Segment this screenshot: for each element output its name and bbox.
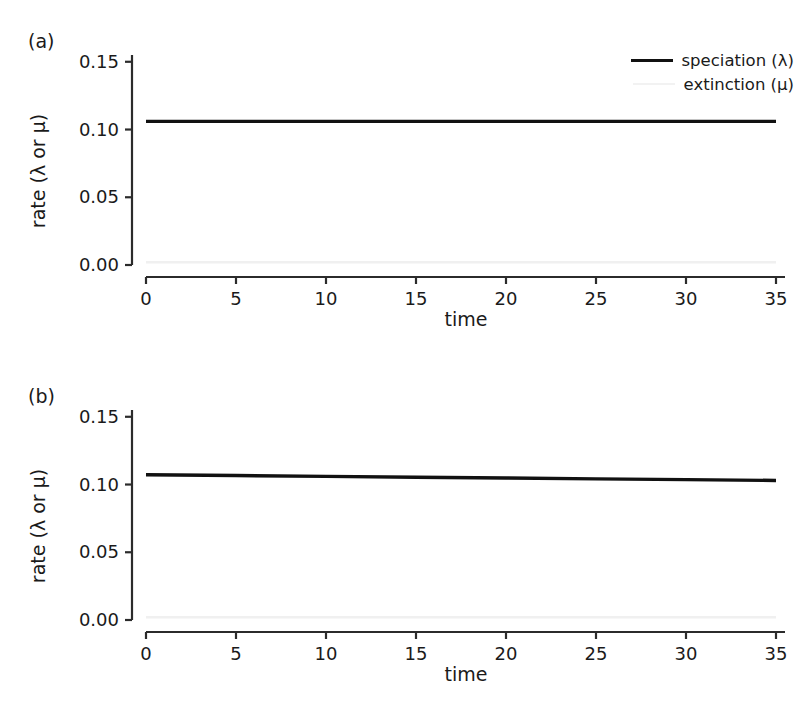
legend-entry-extinction: extinction (μ) [631, 72, 794, 96]
x-axis-label-a: time [146, 308, 786, 330]
legend-label-extinction: extinction (μ) [684, 75, 794, 94]
x-tick-label: 25 [576, 288, 616, 309]
x-tick-label: 30 [666, 643, 706, 664]
x-tick-label: 35 [756, 288, 796, 309]
x-tick-label: 15 [396, 288, 436, 309]
x-tick-label: 5 [216, 643, 256, 664]
x-tick-label: 0 [126, 643, 166, 664]
x-tick-label: 30 [666, 288, 706, 309]
x-tick-label: 15 [396, 643, 436, 664]
x-tick-label: 10 [306, 643, 346, 664]
figure-root: (a) rate (λ or μ) time 0.000.050.100.15 … [0, 0, 812, 710]
y-tick-label: 0.15 [61, 51, 119, 72]
legend-line-speciation-icon [631, 59, 673, 62]
x-tick-label: 10 [306, 288, 346, 309]
y-tick-label: 0.00 [61, 254, 119, 275]
x-tick-label: 5 [216, 288, 256, 309]
y-tick-label: 0.10 [61, 119, 119, 140]
legend-a: speciation (λ) extinction (μ) [631, 48, 794, 96]
y-axis-label-b: rate (λ or μ) [27, 426, 49, 626]
legend-line-extinction-icon [633, 83, 675, 85]
y-tick-label: 0.05 [61, 541, 119, 562]
x-tick-label: 35 [756, 643, 796, 664]
y-tick-label: 0.15 [61, 406, 119, 427]
panel-b: (b) rate (λ or μ) time 0.000.050.100.15 … [0, 355, 812, 710]
y-axis-label-a: rate (λ or μ) [27, 71, 49, 271]
x-tick-label: 0 [126, 288, 166, 309]
x-tick-label: 20 [486, 643, 526, 664]
x-axis-label-b: time [146, 663, 786, 685]
y-tick-label: 0.00 [61, 609, 119, 630]
legend-entry-speciation: speciation (λ) [631, 48, 794, 72]
y-tick-label: 0.10 [61, 474, 119, 495]
legend-label-speciation: speciation (λ) [682, 51, 794, 70]
x-tick-label: 25 [576, 643, 616, 664]
y-tick-label: 0.05 [61, 186, 119, 207]
panel-a: (a) rate (λ or μ) time 0.000.050.100.15 … [0, 0, 812, 355]
x-tick-label: 20 [486, 288, 526, 309]
